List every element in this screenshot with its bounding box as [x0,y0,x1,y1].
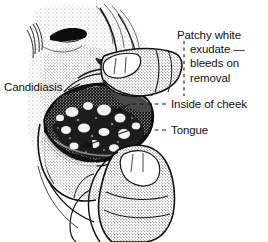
label-patchy-white-exudate: Patchy white exudate — bleeds on removal [177,28,245,85]
upper-finger [101,49,182,97]
label-exudate-line-1: Patchy white [177,29,241,41]
label-candidiasis-text: Candidiasis [4,81,62,93]
label-exudate-line-2: exudate — [177,42,245,56]
label-exudate-line-4: removal [177,71,245,85]
label-inside-of-cheek-text: Inside of cheek [171,98,247,110]
label-tongue: Tongue [171,123,208,137]
label-inside-of-cheek: Inside of cheek [171,97,247,111]
label-exudate-line-3: bleeds on [177,56,245,70]
label-candidiasis: Candidiasis [4,80,62,94]
label-tongue-text: Tongue [171,124,208,136]
medical-illustration-figure: Candidiasis Patchy white exudate — bleed… [0,0,268,242]
